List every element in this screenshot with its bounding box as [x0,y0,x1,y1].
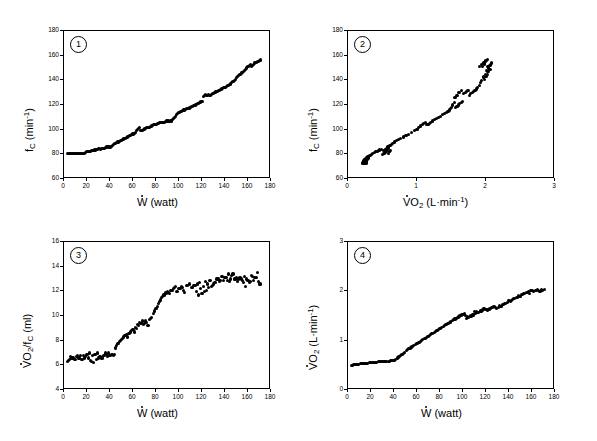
y-tick-mark [344,153,347,154]
y-tick-label: 160 [321,51,343,58]
data-point [141,319,144,322]
x-tick-mark [554,389,555,392]
x-tick-mark [485,389,486,392]
y-tick-mark [60,104,63,105]
y-tick-mark [344,79,347,80]
x-tick-mark [201,389,202,392]
data-point [484,73,487,76]
x-tick-label: 3 [552,183,556,190]
x-tick-mark [393,389,394,392]
data-point [158,300,161,303]
x-tick-label: 60 [412,394,419,401]
y-tick-mark [60,129,63,130]
y-tick-mark [344,241,347,242]
data-point [418,341,421,344]
y-tick-label: 120 [37,101,59,108]
data-point [460,89,463,92]
y-axis-title-text-3: VO2/fC (ml) [21,314,33,368]
x-tick-mark [109,178,110,181]
data-point [188,282,191,285]
x-tick-label: 180 [265,394,276,401]
x-tick-mark [485,178,486,181]
data-point [249,280,252,283]
y-axis-title-text-2: fC (min-1) [307,108,319,152]
y-tick-label: 16 [37,238,59,245]
x-tick-mark [178,178,179,181]
panel-3: 3 VO2/fC (ml) W (watt) 02040608010012014… [0,220,298,441]
x-axis-title-1: W (watt) [137,197,178,208]
scatter-points-3 [64,242,269,388]
y-tick-mark [60,241,63,242]
x-tick-mark [347,178,348,181]
data-point [127,332,130,335]
y-tick-mark [60,153,63,154]
data-point [200,100,203,103]
x-tick-mark [416,389,417,392]
data-point [252,279,255,282]
data-point [427,335,430,338]
data-point [543,288,546,291]
y-tick-label: 100 [37,125,59,132]
x-tick-mark [109,389,110,392]
y-tick-mark [60,55,63,56]
y-tick-mark [60,340,63,341]
x-tick-mark [508,389,509,392]
y-tick-label: 160 [37,51,59,58]
x-tick-mark [247,178,248,181]
plot-frame-1 [63,30,270,178]
y-tick-mark [60,364,63,365]
data-point [464,314,467,317]
data-point [102,354,105,357]
panel-1: 1 fC (min-1) W (watt) 020406080100120140… [0,0,298,220]
x-tick-label: 160 [526,394,537,401]
data-point [240,277,243,280]
data-point [165,292,168,295]
x-tick-label: 20 [366,394,373,401]
data-point [356,363,359,366]
x-axis-title-2: VO2 (L·min-1) [403,197,468,208]
data-point [67,359,70,362]
data-point [106,355,109,358]
data-point [111,353,114,356]
y-tick-label: 80 [321,150,343,157]
data-point [363,362,366,365]
x-tick-mark [178,389,179,392]
data-point [244,285,247,288]
data-point [455,317,458,320]
x-tick-mark [270,178,271,181]
data-point [466,89,469,92]
data-point [131,328,134,331]
x-axis-title-3: W (watt) [137,408,178,419]
x-tick-mark [554,178,555,181]
x-tick-label: 100 [173,394,184,401]
data-point [150,316,153,319]
y-tick-label: 8 [37,336,59,343]
x-tick-label: 20 [82,394,89,401]
x-tick-mark [347,389,348,392]
data-point [259,58,262,61]
x-tick-label: 2 [483,183,487,190]
y-tick-label: 140 [37,76,59,83]
x-tick-label: 40 [105,394,112,401]
panel-label-4: 4 [354,247,371,264]
x-tick-mark [247,389,248,392]
x-axis-title-text-4: W [421,408,431,419]
x-tick-label: 60 [128,183,135,190]
y-axis-title-3: VO2/fC (ml) [22,314,33,368]
y-tick-label: 12 [37,287,59,294]
y-axis-title-text-4: VO2 (L·min-1) [307,305,319,370]
panel-label-3: 3 [70,247,87,264]
y-tick-mark [60,178,63,179]
x-tick-label: 120 [196,394,207,401]
y-tick-mark [60,79,63,80]
data-point [183,291,186,294]
data-point [494,306,497,309]
data-point [242,281,245,284]
x-tick-label: 80 [151,183,158,190]
y-axis-title-2: fC (min-1) [308,108,319,152]
data-point [486,58,489,61]
figure-canvas: 1 fC (min-1) W (watt) 020406080100120140… [0,0,597,441]
data-point [194,284,197,287]
x-tick-mark [132,389,133,392]
x-tick-label: 80 [435,394,442,401]
